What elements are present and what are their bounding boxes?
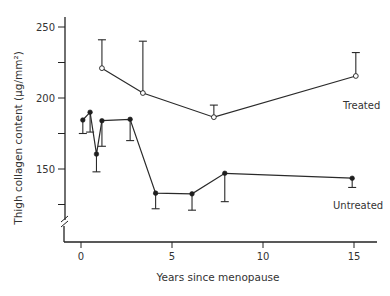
filled-circle-marker: [153, 191, 158, 196]
y-axis-title: Thigh collagen content (µg/mm²): [12, 51, 24, 226]
filled-circle-marker: [100, 118, 105, 123]
filled-circle-marker: [350, 176, 355, 181]
y-tick-label: 250: [36, 22, 55, 33]
filled-circle-marker: [88, 110, 93, 115]
open-circle-marker: [140, 91, 145, 96]
x-tick-label: 15: [348, 251, 361, 262]
series-layer: [79, 40, 360, 210]
series-treated: [98, 40, 360, 120]
filled-circle-marker: [81, 118, 86, 123]
y-tick-label: 200: [36, 93, 55, 104]
x-tick-label: 10: [257, 251, 270, 262]
open-circle-marker: [100, 66, 105, 71]
open-circle-marker: [211, 115, 216, 120]
filled-circle-marker: [128, 117, 133, 122]
filled-circle-marker: [94, 152, 99, 157]
legend-label-treated: Treated: [342, 100, 380, 111]
y-tick-label: 150: [36, 164, 55, 175]
x-tick-label: 0: [78, 251, 84, 262]
x-axis-title: Years since menopause: [155, 271, 279, 283]
axes: 250200150051015: [36, 17, 377, 262]
series-untreated: [79, 110, 356, 210]
open-circle-marker: [353, 74, 358, 79]
filled-circle-marker: [222, 171, 227, 176]
x-tick-label: 5: [169, 251, 175, 262]
series-line: [102, 68, 356, 117]
collagen-line-chart: 250200150051015 Years since menopause Th…: [0, 0, 390, 296]
filled-circle-marker: [190, 192, 195, 197]
legend-label-untreated: Untreated: [333, 200, 383, 211]
series-line: [83, 112, 352, 194]
